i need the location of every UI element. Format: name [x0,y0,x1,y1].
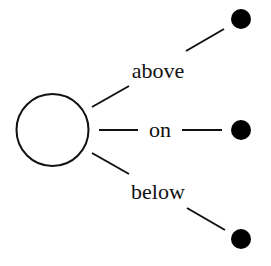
edge-label-on: on [149,117,171,142]
target-node-below-dot [231,229,251,249]
source-node-open-circle [17,94,89,166]
relation-diagram: above on below [0,0,271,266]
target-node-on-dot [231,120,251,140]
edge-above-line-lower [92,86,129,107]
edge-above-line-upper [186,29,224,51]
target-node-above-dot [231,9,251,29]
edge-below-line-upper [92,153,129,174]
edge-below-line-lower [187,208,225,230]
edge-label-above: above [132,58,185,83]
edge-label-below: below [131,179,185,204]
